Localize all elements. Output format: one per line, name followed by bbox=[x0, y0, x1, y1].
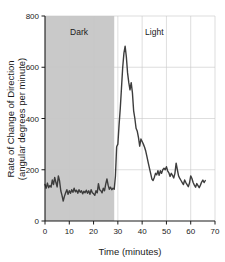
y-axis-tick-labels: 0200400600800 bbox=[26, 12, 40, 226]
y-tick-label: 0 bbox=[35, 217, 40, 226]
x-tick-label: 10 bbox=[65, 227, 74, 236]
x-axis-label: Time (minutes) bbox=[99, 246, 162, 257]
chart-figure: 010203040506070 0200400600800 DarkLight … bbox=[0, 0, 225, 262]
x-tick-label: 50 bbox=[162, 227, 171, 236]
y-tick-label: 800 bbox=[26, 12, 40, 21]
x-axis-tick-labels: 010203040506070 bbox=[43, 227, 220, 236]
y-tick-label: 600 bbox=[26, 63, 40, 72]
x-tick-label: 0 bbox=[43, 227, 48, 236]
x-tick-label: 20 bbox=[89, 227, 98, 236]
x-tick-label: 60 bbox=[186, 227, 195, 236]
phase-label: Light bbox=[145, 27, 164, 37]
y-tick-label: 200 bbox=[26, 166, 40, 175]
phase-label: Dark bbox=[70, 27, 89, 37]
chart-svg: 010203040506070 0200400600800 DarkLight … bbox=[0, 0, 225, 262]
x-tick-label: 40 bbox=[138, 227, 147, 236]
y-axis-label-line2: (angular degrees per minute) bbox=[16, 58, 27, 181]
y-tick-label: 400 bbox=[26, 115, 40, 124]
x-tick-label: 30 bbox=[113, 227, 122, 236]
y-axis-label-line1: Rate of Change of Direction bbox=[5, 60, 16, 177]
x-tick-label: 70 bbox=[211, 227, 220, 236]
